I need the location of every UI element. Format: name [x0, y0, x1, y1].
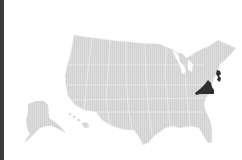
us-map — [0, 0, 242, 160]
alaska — [24, 101, 66, 142]
us-map-svg — [0, 0, 242, 160]
state-new-jersey — [216, 70, 221, 82]
hawaii — [69, 113, 89, 128]
